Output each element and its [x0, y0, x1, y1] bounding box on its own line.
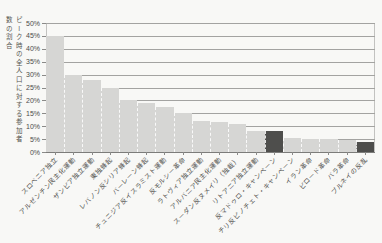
x-tick-mark [73, 152, 74, 155]
y-tick-label-20: 20% [14, 97, 40, 104]
bar-15 [319, 139, 337, 152]
bar-1 [64, 75, 82, 152]
y-tick-label-10: 10% [14, 123, 40, 130]
y-tick-label-35: 35% [14, 58, 40, 65]
chart-figure: ピーク時の全人口に対する参加者数の割合 0%5%10%15%20%25%30%3… [0, 0, 382, 243]
bar-4 [119, 100, 137, 152]
y-tick-label-5: 5% [14, 136, 40, 143]
gridline-30 [46, 75, 375, 76]
bar-13 [283, 138, 301, 152]
x-tick-mark [310, 152, 311, 155]
bar-12 [265, 131, 283, 152]
plot-area: 0%5%10%15%20%25%30%35%40%45%50%スロベニア独立アル… [0, 0, 382, 243]
bar-6 [155, 107, 173, 152]
bar-14 [301, 139, 319, 152]
x-tick-mark [256, 152, 257, 155]
y-tick-label-30: 30% [14, 71, 40, 78]
x-tick-mark [110, 152, 111, 155]
y-tick-mark [42, 152, 46, 153]
bar-7 [174, 113, 192, 152]
y-tick-label-0: 0% [14, 149, 40, 156]
x-tick-mark [55, 152, 56, 155]
bar-16 [338, 140, 356, 152]
x-tick-mark [128, 152, 129, 155]
x-tick-mark [328, 152, 329, 155]
x-tick-mark [92, 152, 93, 155]
y-tick-label-45: 45% [14, 32, 40, 39]
x-tick-mark [237, 152, 238, 155]
y-tick-label-50: 50% [14, 20, 40, 27]
y-tick-label-15: 15% [14, 110, 40, 117]
x-axis-line [46, 152, 375, 153]
x-tick-mark [146, 152, 147, 155]
x-tick-mark [201, 152, 202, 155]
gridline-40 [46, 49, 375, 50]
y-tick-label-25: 25% [14, 84, 40, 91]
bar-5 [137, 103, 155, 152]
bar-11 [246, 131, 264, 152]
bar-0 [46, 36, 64, 152]
bar-2 [82, 80, 100, 152]
bar-8 [192, 121, 210, 152]
x-tick-mark [219, 152, 220, 155]
bar-9 [210, 122, 228, 152]
x-tick-mark [292, 152, 293, 155]
gridline-35 [46, 62, 375, 63]
x-tick-mark [274, 152, 275, 155]
x-tick-mark [365, 152, 366, 155]
x-tick-mark [164, 152, 165, 155]
y-tick-mark [42, 23, 46, 24]
bar-3 [101, 88, 119, 153]
bar-17 [356, 142, 374, 152]
gridline-45 [46, 36, 375, 37]
y-tick-label-40: 40% [14, 45, 40, 52]
bar-10 [228, 124, 246, 152]
x-tick-mark [183, 152, 184, 155]
x-tick-mark [347, 152, 348, 155]
gridline-50 [46, 23, 375, 24]
